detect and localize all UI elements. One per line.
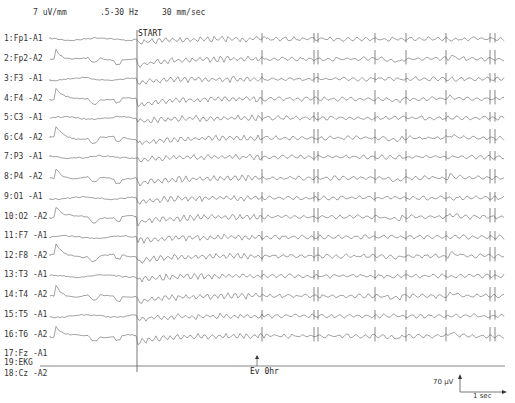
channel-label: 14:T4 -A2 xyxy=(4,290,47,300)
channel-label: 16:T6 -A2 xyxy=(4,330,47,340)
eeg-traces xyxy=(0,0,515,403)
channel-label: 12:F8 -A2 xyxy=(4,251,47,261)
channel-label: 9:O1 -A1 xyxy=(4,192,43,202)
calibration-amplitude: 70 µV xyxy=(433,378,453,386)
channel-label: 6:C4 -A2 xyxy=(4,133,43,143)
channel-label: 18:Cz -A2 xyxy=(4,369,47,379)
channel-label: 3:F3 -A1 xyxy=(4,74,43,84)
channel-label: 8:P4 -A2 xyxy=(4,172,43,182)
channel-label: 1:Fp1-A1 xyxy=(4,34,43,44)
channel-label: 5:C3 -A1 xyxy=(4,113,43,123)
channel-label: 15:T5 -A1 xyxy=(4,310,47,320)
eeg-viewer: 7 uV/mm .5-30 Hz 30 mm/sec 1:Fp1-A12:Fp2… xyxy=(0,0,515,403)
event-marker-label: Ev 0hr xyxy=(250,367,279,376)
channel-label: 7:P3 -A1 xyxy=(4,152,43,162)
start-marker-label: START xyxy=(138,29,162,38)
channel-label: 10:O2 -A2 xyxy=(4,212,47,222)
channel-label: 4:F4 -A2 xyxy=(4,94,43,104)
channel-label: 13:T3 -A1 xyxy=(4,270,47,280)
channel-label: 19:EKG xyxy=(4,358,33,368)
channel-label: 11:F7 -A1 xyxy=(4,231,47,241)
calibration-time: 1 sec xyxy=(473,392,491,400)
channel-label: 2:Fp2-A2 xyxy=(4,54,43,64)
